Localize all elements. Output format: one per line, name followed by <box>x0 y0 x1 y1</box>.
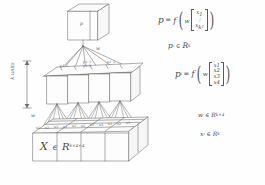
w-in-symbol: ∈ <box>205 112 209 118</box>
input-cell-label: x4 <box>99 124 103 127</box>
lower-eq-vector: x1 x2 x3 x4 <box>209 62 224 86</box>
input-in-symbol: ∈ <box>52 144 57 152</box>
lower-eq-weight: w <box>203 70 208 77</box>
lower-eq-vector-item: x4 <box>213 80 219 86</box>
input-cell-label: x1 <box>108 123 112 126</box>
diagram-canvas: p w w k units p1.1 p1.2 p1.3 p1.4 x1 x2 … <box>0 0 265 185</box>
xi-space-exponent: k <box>217 131 220 136</box>
input-cell-label: x3 <box>126 122 130 125</box>
pi-space-exponent: k <box>188 43 191 48</box>
input-symbol: X <box>40 140 48 153</box>
middle-box-label-4: p1.4 <box>107 61 115 64</box>
lower-equation: pi = f ( w x1 x2 x3 x4 ) <box>175 62 232 86</box>
top-cube-label: p <box>80 22 83 27</box>
top-eq-vector-last: xk² <box>195 23 203 31</box>
bracket-right-icon <box>221 62 225 86</box>
top-cube <box>68 4 109 40</box>
middle-layer <box>44 63 143 104</box>
top-eq-lhs: p <box>158 15 164 25</box>
top-equation: p = f ( w x1 ⋮ xk² ) <box>158 9 216 31</box>
height-arrow-label: k units <box>9 51 15 91</box>
diagram-line-art <box>0 0 265 185</box>
input-cell-label: x3 <box>54 126 58 129</box>
w-symbol: w <box>198 111 203 118</box>
input-cell-label: x1 <box>72 125 76 128</box>
xi-subscript: i <box>203 132 204 136</box>
middle-box-label-2: p1.2 <box>83 65 91 68</box>
input-cell-label: x2 <box>45 127 49 130</box>
input-cell-label: x4 <box>63 126 67 129</box>
input-membership-equation: X ∈ Rk×4×4 <box>40 140 84 153</box>
input-cell-label: x2 <box>81 125 85 128</box>
input-vector-membership-equation: xi ∈ Rk <box>200 130 220 137</box>
lower-eq-equals: = <box>184 70 190 78</box>
top-eq-vector: x1 ⋮ xk² <box>191 9 208 31</box>
top-membership-equation: pi ∈ Rk <box>168 41 191 50</box>
lower-eq-function: f <box>191 69 194 78</box>
input-cell-label: x2 <box>117 123 121 126</box>
middle-box-label-3: p1.3 <box>83 61 91 64</box>
pi-in-symbol: ∈ <box>176 42 180 49</box>
input-cell-label: x1 <box>36 127 40 130</box>
bracket-right-icon <box>205 9 209 31</box>
input-space-exponent: k×4×4 <box>69 143 84 148</box>
xi-in-symbol: ∈ <box>207 131 211 137</box>
top-eq-weight: w <box>185 17 190 24</box>
lower-eq-lhs-subscript: i <box>181 72 182 76</box>
height-arrow <box>23 61 31 108</box>
middle-box-label-1: p1.1 <box>60 65 68 68</box>
weight-label-lower: w <box>31 113 35 118</box>
weight-membership-equation: w ∈ Rk×4 <box>198 111 224 118</box>
weight-label-upper: w <box>96 46 100 51</box>
w-space-exponent: k×4 <box>216 112 225 117</box>
top-eq-function: f <box>173 16 176 25</box>
pi-subscript: i <box>173 44 174 48</box>
input-cell-label: x3 <box>90 124 94 127</box>
top-eq-equals: = <box>165 16 171 24</box>
